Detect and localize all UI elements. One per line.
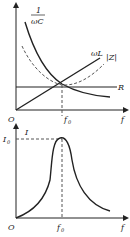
top-f0-sub: 0 <box>68 119 72 125</box>
inductive-reactance-line <box>16 58 100 110</box>
label-1-over-omegaC-num: 1 <box>36 6 41 15</box>
resonance-diagram: 1 ωC ωL |Z| R O f f 0 I I 0 O f f 0 <box>0 0 130 237</box>
current-resonance-curve <box>16 138 110 218</box>
bottom-origin-label: O <box>8 223 15 232</box>
label-Z: |Z| <box>106 53 117 62</box>
peak-sub: 0 <box>7 139 11 145</box>
label-R: R <box>117 83 124 92</box>
bottom-y-axis-label: I <box>24 128 29 137</box>
label-omegaL: ωL <box>91 49 103 58</box>
label-1-over-omegaC-den: ωC <box>31 17 44 26</box>
bottom-x-axis-label: f <box>120 223 126 232</box>
top-x-axis-label: f <box>120 115 126 124</box>
bottom-plot: I I 0 O f f 0 <box>2 126 126 233</box>
top-plot: 1 ωC ωL |Z| R O f f 0 <box>8 5 126 125</box>
bottom-f0-sub: 0 <box>61 227 65 233</box>
top-origin-label: O <box>8 115 15 124</box>
